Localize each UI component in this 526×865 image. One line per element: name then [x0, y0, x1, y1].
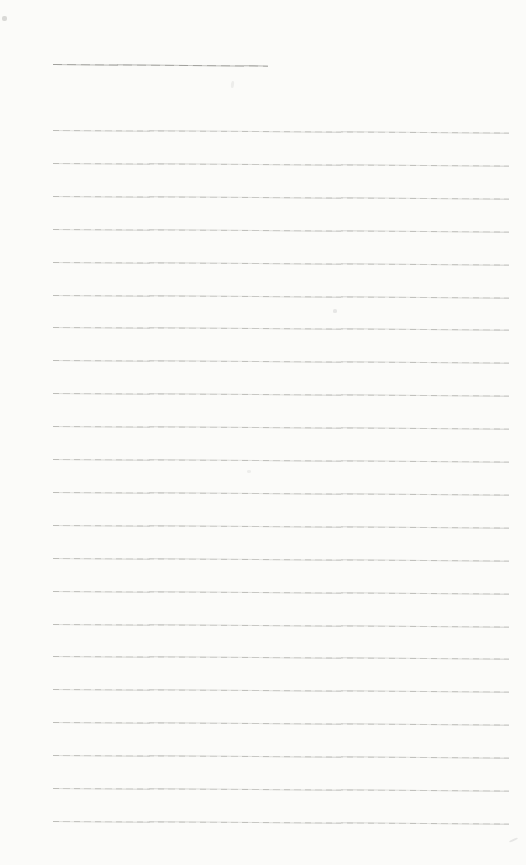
scan-speck [509, 837, 518, 843]
scan-speck [2, 16, 7, 21]
scan-speck [247, 470, 251, 473]
ruled-line [53, 525, 509, 528]
ruled-line [53, 262, 509, 265]
ruled-line [53, 624, 509, 627]
ruled-line [53, 426, 509, 429]
ruled-line [53, 591, 509, 594]
ruled-line [53, 130, 509, 133]
ruled-line [53, 163, 509, 166]
scan-speck [333, 309, 337, 313]
title-underline-line [53, 64, 268, 67]
ruled-line [53, 689, 509, 692]
notebook-page [0, 0, 526, 865]
ruled-line [53, 393, 509, 396]
ruled-line [53, 327, 509, 330]
ruled-line [53, 558, 509, 561]
ruled-line [53, 656, 509, 659]
ruled-line [53, 196, 509, 199]
ruled-line [53, 722, 509, 725]
ruled-line [53, 229, 509, 232]
ruled-line [53, 295, 509, 298]
ruled-line [53, 492, 509, 495]
ruled-line [53, 788, 509, 791]
ruled-line [53, 755, 509, 758]
ruled-line [53, 459, 509, 462]
scan-speck [231, 81, 235, 88]
ruled-line [53, 821, 509, 824]
ruled-line [53, 360, 509, 363]
